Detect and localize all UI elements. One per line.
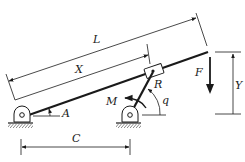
extension-line-left	[6, 74, 15, 100]
dimension-C: C	[21, 132, 130, 155]
extension-line-x	[147, 44, 150, 64]
label-M: M	[105, 95, 118, 108]
left-pivot-support	[8, 106, 33, 128]
label-A: A	[61, 107, 70, 120]
label-R: R	[153, 78, 162, 91]
extension-line-right	[196, 13, 207, 46]
mechanism-diagram: L X A q M	[0, 0, 245, 162]
label-L: L	[92, 33, 100, 46]
label-C: C	[72, 132, 81, 145]
dimension-line-L	[9, 18, 196, 81]
label-F: F	[194, 66, 203, 79]
dimension-Y: Y	[215, 52, 244, 114]
dimension-line-X	[15, 55, 148, 100]
force-F: F	[194, 57, 214, 94]
label-Y: Y	[235, 79, 244, 92]
label-q: q	[162, 94, 169, 107]
slider-block	[144, 63, 164, 78]
right-pivot-support	[116, 106, 141, 128]
angle-A: A	[33, 107, 70, 120]
label-X: X	[74, 63, 84, 76]
angle-q: q	[142, 89, 169, 115]
